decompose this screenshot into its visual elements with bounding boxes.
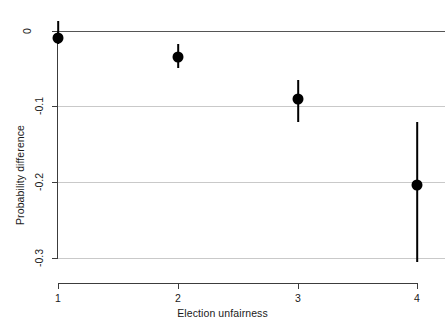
y-tick-label-0.1: -0.1 <box>33 93 45 119</box>
data-point-2 <box>173 52 184 63</box>
y-axis-title: Probability difference <box>14 125 26 225</box>
y-tick-label-0.2: -0.2 <box>33 169 45 195</box>
x-axis-title: Election unfairness <box>0 307 445 319</box>
y-tick-mark-0.2 <box>52 182 57 183</box>
y-tick-label-0.3: -0.3 <box>33 245 45 271</box>
data-point-4 <box>412 180 423 191</box>
x-tick-mark-2 <box>178 284 179 289</box>
x-tick-label-2: 2 <box>168 292 188 304</box>
x-tick-label-4: 4 <box>407 292 427 304</box>
gridline-y-0.1 <box>58 106 445 107</box>
y-tick-mark-0.3 <box>52 258 57 259</box>
gridline-y-0 <box>58 31 445 32</box>
x-tick-mark-1 <box>58 284 59 289</box>
chart-plot-area: 0 -0.1 -0.2 -0.3 1 2 3 4 Probability dif… <box>0 0 445 330</box>
gridline-y-0.3 <box>58 258 445 259</box>
x-tick-label-1: 1 <box>48 292 68 304</box>
errorbar-4 <box>416 122 418 262</box>
x-tick-mark-4 <box>417 284 418 289</box>
x-axis-line <box>58 283 418 284</box>
data-point-3 <box>293 94 304 105</box>
y-tick-mark-0.1 <box>52 106 57 107</box>
y-tick-label-0: 0 <box>21 18 33 44</box>
y-axis-line <box>57 31 58 259</box>
data-point-1 <box>53 33 64 44</box>
gridline-y-0.2 <box>58 182 445 183</box>
x-tick-mark-3 <box>298 284 299 289</box>
x-tick-label-3: 3 <box>288 292 308 304</box>
